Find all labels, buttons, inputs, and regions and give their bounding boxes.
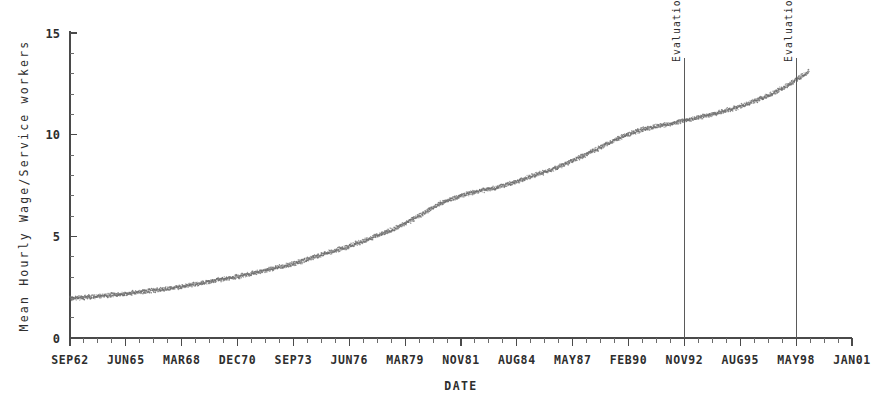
data-point — [637, 132, 638, 133]
data-point — [613, 142, 614, 143]
data-point — [470, 194, 471, 195]
data-point — [808, 69, 809, 70]
data-point — [803, 72, 804, 73]
data-point — [438, 205, 439, 206]
data-point — [553, 171, 554, 172]
data-point — [321, 255, 322, 256]
data-point — [595, 147, 596, 148]
reference-lines: Evaluation Period BeginsEvaluation Perio… — [671, 0, 796, 338]
x-tick-label: SEP62 — [51, 353, 89, 367]
data-point — [604, 146, 605, 147]
x-tick-label: MAY98 — [777, 353, 815, 367]
data-point — [350, 245, 351, 246]
data-point — [554, 166, 555, 167]
data-point — [410, 221, 411, 222]
data-point — [723, 112, 724, 113]
data-point — [501, 186, 502, 187]
data-point — [633, 130, 634, 131]
data-point — [410, 222, 411, 223]
data-point — [807, 73, 808, 74]
data-point — [463, 197, 464, 198]
data-point — [288, 265, 289, 266]
data-point — [359, 244, 360, 245]
x-tick-label: AUG84 — [498, 353, 536, 367]
data-point — [342, 246, 343, 247]
data-point — [118, 295, 119, 296]
data-point — [792, 79, 793, 80]
data-point — [268, 267, 269, 268]
data-point — [721, 112, 722, 113]
data-point — [698, 118, 699, 119]
data-point — [759, 100, 760, 101]
data-point — [484, 192, 485, 193]
data-point — [440, 200, 441, 201]
data-point — [785, 87, 786, 88]
data-point — [631, 130, 632, 131]
data-point — [561, 165, 562, 166]
x-tick-label: JUN76 — [330, 353, 368, 367]
data-point — [680, 123, 681, 124]
data-point — [643, 126, 644, 127]
data-point — [163, 287, 164, 288]
data-point — [588, 154, 589, 155]
data-point — [492, 186, 493, 187]
data-point — [201, 284, 202, 285]
data-point — [621, 139, 622, 140]
data-point — [406, 224, 407, 225]
data-point — [291, 261, 292, 262]
data-point — [250, 274, 251, 275]
y-tick-label: 0 — [53, 332, 60, 346]
data-point — [436, 206, 437, 207]
data-point — [266, 271, 267, 272]
data-point — [433, 208, 434, 209]
data-point — [295, 265, 296, 266]
data-point — [153, 288, 154, 289]
data-point — [751, 102, 752, 103]
data-point — [71, 298, 72, 299]
data-point — [536, 172, 537, 173]
data-point — [770, 91, 771, 92]
data-point — [150, 292, 151, 293]
data-point — [754, 102, 755, 103]
data-point — [728, 110, 729, 111]
data-point — [531, 173, 532, 174]
x-tick-label: JUN65 — [107, 353, 145, 367]
data-point — [579, 159, 580, 160]
data-point — [195, 285, 196, 286]
data-point — [358, 240, 359, 241]
data-point — [88, 294, 89, 295]
data-point — [647, 126, 648, 127]
data-point — [797, 79, 798, 80]
data-point — [124, 295, 125, 296]
x-tick-label: MAR79 — [386, 353, 424, 367]
data-point — [452, 200, 453, 201]
data-point — [655, 124, 656, 125]
data-point — [415, 215, 416, 216]
data-point — [246, 276, 247, 277]
data-point — [638, 129, 639, 130]
data-point — [657, 124, 658, 125]
data-point — [442, 203, 443, 204]
data-point — [653, 128, 654, 129]
data-point — [494, 186, 495, 187]
data-point — [256, 274, 257, 275]
data-point — [757, 102, 758, 103]
data-point — [220, 281, 221, 282]
data-point — [559, 166, 560, 167]
data-point — [785, 83, 786, 84]
x-tick-label: MAY87 — [554, 353, 592, 367]
data-point — [429, 211, 430, 212]
data-point — [779, 86, 780, 87]
data-point — [405, 223, 406, 224]
data-point — [210, 279, 211, 280]
data-point — [786, 87, 787, 88]
data-point — [542, 170, 543, 171]
data-point — [382, 234, 383, 235]
data-point — [772, 91, 773, 92]
data-point — [670, 125, 671, 126]
data-point — [222, 278, 223, 279]
data-point — [283, 264, 284, 265]
data-point — [257, 270, 258, 271]
data-point — [549, 168, 550, 169]
data-point — [126, 292, 127, 293]
